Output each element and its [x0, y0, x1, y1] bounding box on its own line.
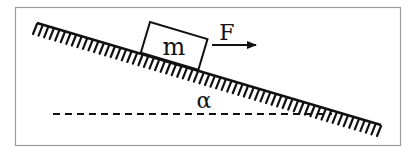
force-label: F	[219, 20, 234, 45]
block-label: m	[163, 33, 186, 61]
diagram-canvas: m F α	[0, 0, 413, 156]
angle-label: α	[197, 88, 212, 113]
